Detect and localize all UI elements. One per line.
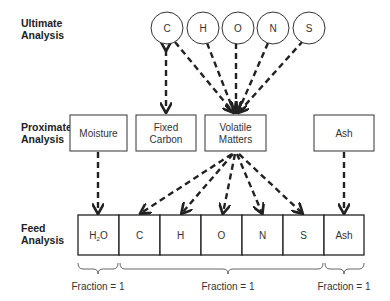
feed-ash-label: Ash xyxy=(335,230,352,241)
fixed-carbon-label: FixedCarbon xyxy=(150,122,183,145)
fraction-ash-label: Fraction = 1 xyxy=(317,281,371,292)
feed-c-label: C xyxy=(136,230,143,241)
feed-analysis-label: FeedAnalysis xyxy=(21,222,64,246)
feed-s-label: S xyxy=(300,230,307,241)
feed-h-label: H xyxy=(177,230,184,241)
feed-n-label: N xyxy=(259,230,266,241)
feed-cells: H2O C H O N S Ash xyxy=(78,215,364,255)
element-c-label: C xyxy=(163,23,170,34)
element-s-label: S xyxy=(306,23,313,34)
ultimate-analysis-label: UltimateAnalysis xyxy=(21,17,64,41)
analysis-diagram: UltimateAnalysis ProximateAnalysis FeedA… xyxy=(0,0,390,301)
ultimate-to-volatile-arrows xyxy=(175,41,303,112)
proximate-boxes: Moisture FixedCarbon VolatileMatters Ash xyxy=(70,115,374,151)
element-h-label: H xyxy=(199,23,206,34)
ash-label: Ash xyxy=(335,128,352,139)
element-o-label: O xyxy=(234,23,242,34)
fixed-carbon-box xyxy=(136,115,196,151)
fraction-dry-ash-free-label: Fraction = 1 xyxy=(201,281,255,292)
element-n-label: N xyxy=(269,23,276,34)
fraction-moisture-label: Fraction = 1 xyxy=(71,281,125,292)
moisture-label: Moisture xyxy=(79,128,118,139)
ultimate-element-circles: C H O N S xyxy=(151,12,325,44)
feed-cell-h2o xyxy=(78,215,119,255)
feed-o-label: O xyxy=(218,230,226,241)
proximate-analysis-label: ProximateAnalysis xyxy=(21,121,72,145)
proximate-to-feed-arrows xyxy=(98,152,344,213)
volatile-matters-label: VolatileMatters xyxy=(219,122,252,145)
fraction-braces xyxy=(78,263,364,274)
volatile-matters-box xyxy=(205,115,266,151)
